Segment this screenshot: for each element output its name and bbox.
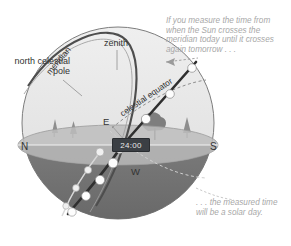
caption-bottom: . . . the measured time will be a solar … (196, 198, 288, 217)
clock-display: 24:00 (112, 138, 150, 152)
label-zenith: zenith (104, 38, 128, 48)
clock-value: 24:00 (120, 141, 142, 150)
celestial-sphere-figure: north celestial pole zenith meridian cel… (0, 0, 291, 246)
label-compass-south: S (210, 142, 217, 152)
label-compass-west: W (131, 167, 140, 177)
caption-top: If you measure the time from when the Su… (166, 16, 288, 54)
label-compass-north: N (21, 142, 28, 152)
label-compass-east: E (103, 117, 109, 127)
